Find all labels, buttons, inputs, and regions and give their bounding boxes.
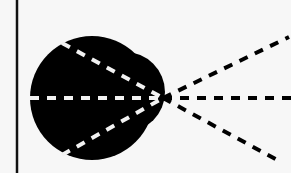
upper-ray-outer: [163, 37, 289, 98]
diagram-canvas: [0, 0, 291, 173]
lower-ray-outer: [163, 98, 279, 161]
rays-outside: [163, 37, 291, 161]
ray-diagram: [0, 0, 291, 173]
